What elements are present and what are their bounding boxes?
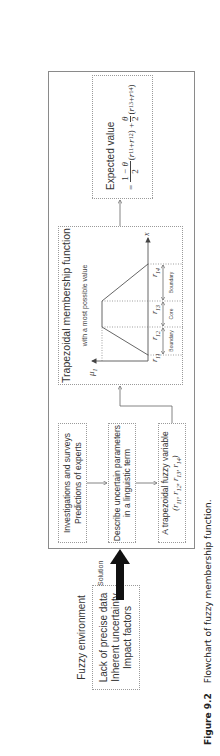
figure-caption-text: Flowchart of fuzzy membership function. xyxy=(203,499,213,683)
point-label-r13: r13 xyxy=(150,305,161,314)
figure-number: Figure 9.2 xyxy=(203,693,213,745)
figure-canvas: Fuzzy environment Lack of precise data I… xyxy=(0,0,220,756)
point-label-r14: r14 xyxy=(150,268,161,277)
connector-variable-trapezoid xyxy=(120,386,172,423)
diagram-graphics xyxy=(0,0,220,756)
mu-axis-label: μ1 xyxy=(86,368,98,376)
segment-label-boundary-right: Boundary xyxy=(168,265,174,300)
point-label-r12: r12 xyxy=(150,331,161,340)
segment-label-core: Core xyxy=(168,302,174,326)
figure-caption: Figure 9.2Flowchart of fuzzy membership … xyxy=(203,499,213,745)
point-label-r11: r11 xyxy=(150,353,161,362)
segment-label-boundary-left: Boundary xyxy=(168,328,174,354)
x-axis-label: x xyxy=(142,232,151,236)
trapezoid-shape xyxy=(102,264,148,355)
solution-arrow xyxy=(110,549,130,600)
